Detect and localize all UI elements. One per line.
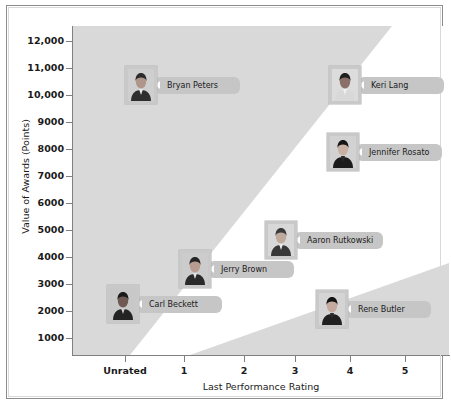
y-tick-label: 12,000 <box>12 36 64 46</box>
employee-photo[interactable] <box>329 66 361 104</box>
y-tick-mark <box>66 338 72 339</box>
data-label-text: Carl Beckett <box>149 300 198 309</box>
x-tick-mark <box>125 356 126 362</box>
y-tick-label-wrap: 10,000 <box>7 90 64 100</box>
data-point-jennifer-rosato[interactable]: Jennifer Rosato <box>327 132 442 172</box>
y-tick-label-wrap: 1000 <box>7 333 64 343</box>
x-tick-label: 2 <box>241 365 248 376</box>
employee-photo[interactable] <box>265 221 297 259</box>
x-tick-mark <box>405 356 406 362</box>
y-tick-label: 3000 <box>12 279 64 289</box>
y-tick-label-wrap: 2000 <box>7 306 64 316</box>
employee-photo[interactable] <box>327 133 359 171</box>
y-tick-label-wrap: 4000 <box>7 252 64 262</box>
x-tick-mark <box>295 356 296 362</box>
x-axis-line <box>72 355 450 356</box>
y-tick-label-wrap: 5000 <box>7 225 64 235</box>
x-tick-mark <box>244 356 245 362</box>
y-tick-mark <box>66 257 72 258</box>
x-tick-mark <box>350 356 351 362</box>
data-label-callout[interactable]: Jerry Brown <box>208 261 294 278</box>
y-tick-mark <box>66 68 72 69</box>
y-axis-title: Value of Awards (Points) <box>20 97 31 257</box>
x-axis-title: Last Performance Rating <box>72 381 450 392</box>
y-tick-label-wrap: 3000 <box>7 279 64 289</box>
y-tick-label: 11,000 <box>12 63 64 73</box>
x-tick-label: 3 <box>292 365 299 376</box>
y-tick-mark <box>66 203 72 204</box>
data-label-text: Keri Lang <box>371 81 408 90</box>
y-tick-label-wrap: 8000 <box>7 144 64 154</box>
x-tick-label: 1 <box>181 365 188 376</box>
y-tick-label-wrap: 7000 <box>7 171 64 181</box>
y-tick-mark <box>66 311 72 312</box>
y-tick-label-wrap: 12,000 <box>7 36 64 46</box>
employee-photo[interactable] <box>107 285 139 323</box>
data-point-keri-lang[interactable]: Keri Lang <box>329 65 444 105</box>
data-point-bryan-peters[interactable]: Bryan Peters <box>125 65 240 105</box>
y-tick-mark <box>66 284 72 285</box>
y-tick-label-wrap: 11,000 <box>7 63 64 73</box>
y-tick-label: 1000 <box>12 333 64 343</box>
data-label-callout[interactable]: Aaron Rutkowski <box>294 232 383 249</box>
x-tick-mark <box>184 356 185 362</box>
data-label-callout[interactable]: Rene Butler <box>345 301 431 318</box>
x-tick-label: 4 <box>347 365 354 376</box>
y-tick-mark <box>66 176 72 177</box>
data-label-callout[interactable]: Jennifer Rosato <box>356 144 442 161</box>
data-label-callout[interactable]: Keri Lang <box>358 77 444 94</box>
y-tick-label: 2000 <box>12 306 64 316</box>
data-point-aaron-rutkowski[interactable]: Aaron Rutkowski <box>265 220 383 260</box>
data-label-text: Aaron Rutkowski <box>307 236 373 245</box>
y-tick-mark <box>66 95 72 96</box>
data-label-text: Bryan Peters <box>167 81 218 90</box>
data-label-text: Jerry Brown <box>221 265 267 274</box>
employee-photo[interactable] <box>125 66 157 104</box>
employee-photo[interactable] <box>316 290 348 328</box>
data-label-callout[interactable]: Bryan Peters <box>154 77 240 94</box>
data-label-callout[interactable]: Carl Beckett <box>136 296 222 313</box>
employee-photo[interactable] <box>179 250 211 288</box>
x-tick-label: 5 <box>402 365 409 376</box>
data-label-text: Rene Butler <box>358 305 405 314</box>
data-label-text: Jennifer Rosato <box>369 148 429 157</box>
y-tick-mark <box>66 41 72 42</box>
chart-frame: 12,00011,00010,0009000800070006000500040… <box>6 5 443 399</box>
y-tick-mark <box>66 149 72 150</box>
data-point-rene-butler[interactable]: Rene Butler <box>316 289 431 329</box>
y-tick-label-wrap: 9000 <box>7 117 64 127</box>
y-tick-mark <box>66 230 72 231</box>
data-point-carl-beckett[interactable]: Carl Beckett <box>107 284 222 324</box>
y-axis-line <box>72 26 73 356</box>
y-tick-mark <box>66 122 72 123</box>
x-tick-label: Unrated <box>103 365 146 376</box>
y-tick-label-wrap: 6000 <box>7 198 64 208</box>
